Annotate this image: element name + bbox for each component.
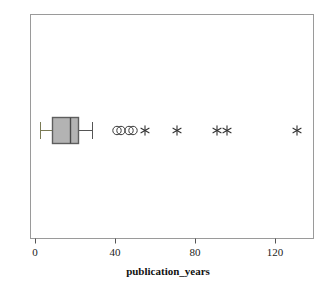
tick-label-120: 120 bbox=[267, 246, 284, 258]
tick-label-40: 40 bbox=[110, 246, 122, 258]
x-axis-tick-labels: 0 40 80 120 bbox=[32, 246, 284, 258]
tick-label-0: 0 bbox=[32, 246, 38, 258]
box-iqr bbox=[53, 118, 79, 144]
x-axis-title: publication_years bbox=[126, 265, 210, 277]
x-axis-ticks bbox=[36, 239, 276, 244]
boxplot-canvas: 0 40 80 120 publication_years bbox=[0, 0, 333, 287]
tick-label-80: 80 bbox=[190, 246, 202, 258]
boxplot-figure: 0 40 80 120 publication_years bbox=[0, 0, 333, 287]
